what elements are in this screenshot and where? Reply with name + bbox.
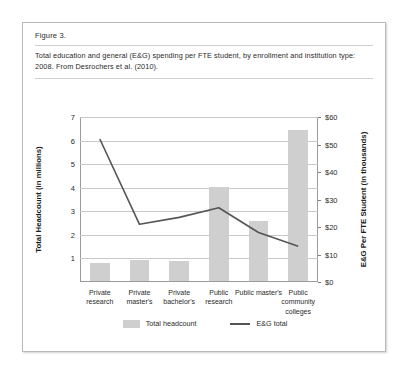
y-axis-left-tick-label: 2 xyxy=(71,230,75,239)
y-axis-right-tick-label: $40 xyxy=(325,168,338,177)
y-axis-right-tick-label: $60 xyxy=(325,113,338,122)
y-axis-left-title-text: Total Headcount (in millions) xyxy=(34,146,43,252)
y-axis-left-tick-label: 3 xyxy=(71,207,75,216)
legend-item-eandg: E&G total xyxy=(230,319,287,328)
y-axis-right-tickmark xyxy=(318,172,321,173)
chart-area: Total Headcount (in millions) E&G Per FT… xyxy=(23,95,387,353)
legend-item-headcount: Total headcount xyxy=(123,319,197,328)
plot-region: 1234567 $0$10$20$30$40$50$60 Private res… xyxy=(80,117,318,282)
legend-label-eandg: E&G total xyxy=(256,319,287,328)
caption-divider-bottom xyxy=(35,78,373,79)
chart-legend: Total headcount E&G total xyxy=(23,319,387,328)
y-axis-left-tick-label: 4 xyxy=(71,183,75,192)
y-axis-left-tick-label: 6 xyxy=(71,136,75,145)
figure-caption-block: Figure 3. Total education and general (E… xyxy=(23,23,385,79)
line-series-path xyxy=(100,139,298,246)
y-axis-right-tickmark xyxy=(318,227,321,228)
figure-caption-text: Total education and general (E&G) spendi… xyxy=(35,46,373,78)
y-axis-left-tick-label: 7 xyxy=(71,113,75,122)
y-axis-right-title-text: E&G Per FTE Student (in thousands) xyxy=(360,132,369,268)
y-axis-right-tickmark xyxy=(318,145,321,146)
y-axis-right-tickmark xyxy=(318,117,321,118)
y-axis-right-tickmark xyxy=(318,255,321,256)
legend-line-icon xyxy=(230,323,250,325)
y-axis-left-tick-label: 1 xyxy=(71,254,75,263)
figure-container: Figure 3. Total education and general (E… xyxy=(22,22,386,352)
y-axis-left-tick-label: 5 xyxy=(71,160,75,169)
legend-swatch-icon xyxy=(123,320,140,328)
y-axis-right-tick-label: $20 xyxy=(325,223,338,232)
y-axis-right-tickmark xyxy=(318,200,321,201)
figure-number-label: Figure 3. xyxy=(35,31,373,45)
y-axis-right-tickmark xyxy=(318,282,321,283)
x-axis-label: Public community colleges xyxy=(274,288,322,316)
legend-label-headcount: Total headcount xyxy=(146,319,197,328)
y-axis-left-title: Total Headcount (in millions) xyxy=(31,117,45,282)
y-axis-right-tick-label: $0 xyxy=(325,278,333,287)
y-axis-right-tick-label: $30 xyxy=(325,195,338,204)
y-axis-right-tick-label: $50 xyxy=(325,140,338,149)
y-axis-right-title: E&G Per FTE Student (in thousands) xyxy=(357,117,371,282)
line-series xyxy=(80,117,318,282)
y-axis-right-tick-label: $10 xyxy=(325,250,338,259)
